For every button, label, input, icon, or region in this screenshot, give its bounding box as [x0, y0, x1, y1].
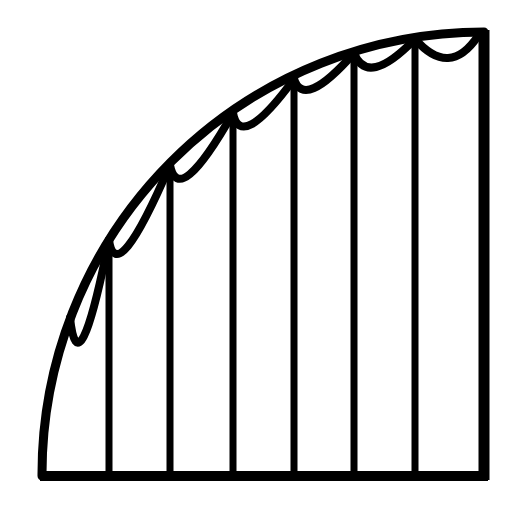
diagram-svg — [0, 0, 506, 515]
scallop-3 — [170, 113, 233, 179]
vertical-strip-lines — [109, 39, 415, 476]
quarter-circle-diagram — [0, 0, 506, 515]
